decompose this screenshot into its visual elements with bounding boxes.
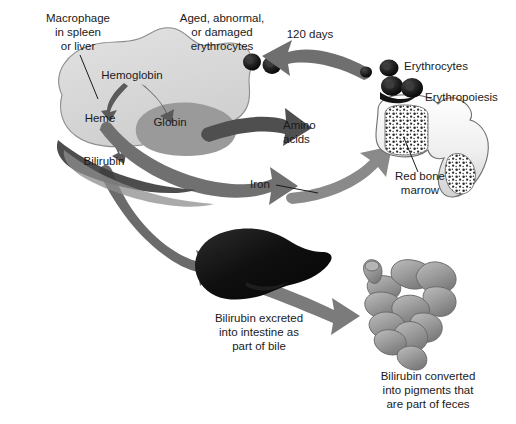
new-erythrocyte-2-center: [386, 81, 394, 89]
label-bilirubin-converted-line-3: are part of feces: [386, 398, 469, 410]
diagram-canvas: Macrophage in spleen or liver Aged, abno…: [0, 0, 516, 424]
erythrocyte-lifecycle-diagram: Macrophage in spleen or liver Aged, abno…: [0, 0, 516, 424]
label-hemoglobin: Hemoglobin: [101, 69, 162, 81]
intestine-organ: [364, 260, 456, 370]
label-liver: Liver: [216, 249, 241, 261]
label-bilirubin-excreted-line-2: into intestine as: [219, 326, 299, 338]
aged-erythrocyte-1-center: [247, 58, 254, 64]
arrow-120-days: [262, 40, 371, 80]
label-red-bone-marrow: Red bone marrow: [395, 170, 445, 196]
label-bilirubin: Bilirubin: [84, 155, 125, 167]
label-erythrocytes: Erythrocytes: [404, 60, 468, 72]
label-120-days: 120 days: [287, 28, 334, 40]
arrow-iron-marrow: [286, 146, 392, 204]
erythrocytes-120-days-arrow: [262, 40, 371, 80]
label-bilirubin-converted-line-1: Bilirubin converted: [381, 370, 476, 382]
label-erythropoiesis: Erythropoiesis: [425, 91, 498, 103]
label-bilirubin-converted-line-2: into pigments that: [383, 384, 475, 396]
gut-end-opening: [365, 261, 379, 271]
red-bone-marrow-cavity: [385, 105, 428, 155]
label-bilirubin-converted: Bilirubin converted into pigments that a…: [381, 370, 476, 410]
label-amino-acids-line-2: acids: [283, 133, 310, 145]
label-macrophage-line-2: in spleen: [55, 26, 101, 38]
new-erythrocyte-small: [360, 67, 372, 78]
label-globin: Globin: [153, 116, 186, 128]
label-aged-line-3: erythrocytes: [191, 40, 254, 52]
label-heme: Heme: [85, 112, 116, 124]
label-bilirubin-excreted-line-3: part of bile: [232, 340, 286, 352]
new-erythrocyte-1-center: [383, 64, 390, 70]
label-aged-erythrocytes: Aged, abnormal, or damaged erythrocytes: [180, 12, 264, 52]
label-aged-line-1: Aged, abnormal,: [180, 12, 264, 24]
label-aged-line-2: or damaged: [191, 26, 252, 38]
label-amino-acids-line-1: Amino: [283, 119, 316, 131]
gut-coil-11: [397, 346, 427, 370]
label-red-bone-marrow-line-1: Red bone: [395, 170, 445, 182]
iron-to-marrow-arrow: [286, 146, 392, 204]
label-iron: Iron: [250, 178, 270, 190]
label-red-bone-marrow-line-2: marrow: [401, 184, 440, 196]
label-bilirubin-excreted-line-1: Bilirubin excreted: [215, 312, 303, 324]
liver-organ: [195, 228, 332, 299]
label-macrophage-line-1: Macrophage: [46, 12, 110, 24]
new-erythrocyte-3-center: [406, 83, 414, 91]
label-bilirubin-excreted: Bilirubin excreted into intestine as par…: [215, 312, 303, 352]
label-macrophage-line-3: or liver: [61, 40, 96, 52]
